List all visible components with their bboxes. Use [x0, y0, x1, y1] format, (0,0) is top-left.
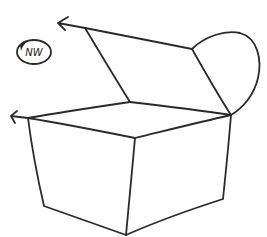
compass-nw-badge: NW — [17, 40, 51, 64]
box-front-vertical-edge — [126, 138, 135, 235]
box-top-back-right-edge — [130, 102, 231, 115]
box-left-face — [28, 118, 126, 235]
lid-fold-line — [192, 49, 231, 115]
arrow-mid-left-icon — [11, 111, 28, 123]
arrow-top-left-icon — [58, 17, 85, 30]
lid — [85, 28, 259, 115]
lid-rounded-flap — [192, 32, 259, 115]
box-top-front-left-edge — [28, 118, 135, 138]
box-top-front-right-edge — [135, 115, 231, 138]
compass-label: NW — [25, 47, 43, 58]
lid-left-flap — [85, 28, 192, 102]
open-box-diagram: NW — [0, 0, 267, 237]
box-top-back-left-edge — [28, 102, 130, 118]
box — [28, 102, 231, 235]
box-right-face — [126, 115, 231, 235]
arrows — [11, 17, 85, 123]
